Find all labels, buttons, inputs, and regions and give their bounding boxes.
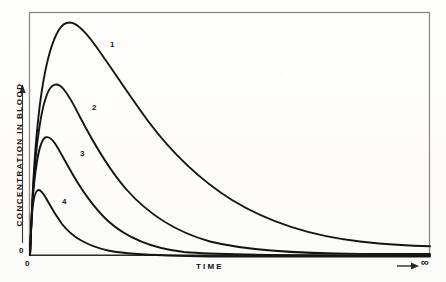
- curve-label-2: 2: [92, 103, 96, 112]
- y-axis-origin-label: 0: [19, 246, 23, 255]
- x-axis-title: TIME: [196, 262, 224, 271]
- x-axis-infinity-label: ∞: [421, 257, 429, 268]
- figure-container: CONCENTRATION IN BLOOD TIME 0 0 ∞ 1 2 3 …: [0, 0, 446, 282]
- plot-canvas: [0, 0, 446, 282]
- curve-1: [30, 23, 430, 255]
- curve-label-3: 3: [80, 149, 84, 158]
- curve-2: [30, 85, 430, 255]
- curve-label-4: 4: [62, 197, 66, 206]
- curve-label-1: 1: [110, 40, 114, 49]
- arrow-right-icon: [411, 263, 419, 270]
- x-axis-origin-label: 0: [25, 259, 29, 268]
- curve-3: [30, 137, 430, 255]
- y-axis-title: CONCENTRATION IN BLOOD: [15, 80, 24, 230]
